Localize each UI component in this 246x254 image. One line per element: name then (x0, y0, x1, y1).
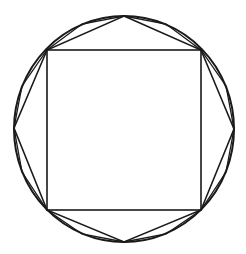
geometry-figure (0, 0, 246, 254)
inscribed-square (47, 50, 201, 210)
diagram-canvas (0, 0, 246, 254)
